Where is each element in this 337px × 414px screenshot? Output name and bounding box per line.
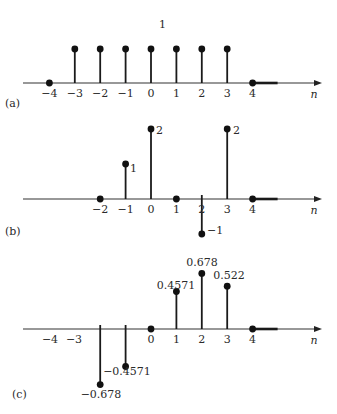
- stem-dot: [71, 46, 78, 53]
- value-annotation: 0.522: [213, 269, 245, 282]
- x-tick-label: −1: [117, 203, 133, 216]
- panel-label: (b): [5, 225, 21, 238]
- x-tick-label: 3: [224, 333, 231, 346]
- x-tick-label: 3: [224, 203, 231, 216]
- x-tick-label: −4: [41, 87, 57, 100]
- panel-label: (a): [5, 97, 20, 110]
- x-tick-label: 4: [249, 87, 256, 100]
- stem-dot: [224, 283, 231, 290]
- value-annotation: 0.678: [186, 256, 218, 269]
- value-annotation: 2: [233, 124, 240, 137]
- x-tick-label: −4: [42, 333, 58, 346]
- x-axis-label: n: [310, 88, 317, 101]
- x-axis-label: n: [310, 334, 317, 347]
- x-tick-label: 2: [198, 333, 205, 346]
- x-tick-label: −2: [92, 87, 108, 100]
- stem-dot: [224, 126, 231, 133]
- x-tick-label: 4: [249, 203, 256, 216]
- stem-plots-figure: −4−3−2−101234n1(a)−2−101234n12−12(b)−4−3…: [0, 0, 337, 414]
- x-axis-label: n: [310, 204, 317, 217]
- x-tick-label: 3: [224, 87, 231, 100]
- stem-dot: [198, 231, 205, 238]
- x-tick-label: 2: [198, 203, 205, 216]
- x-tick-label: −2: [92, 203, 108, 216]
- x-tick-label: 0: [148, 203, 155, 216]
- value-annotation: 1: [159, 18, 166, 31]
- stem-dot: [173, 196, 180, 203]
- stem-dot: [148, 326, 155, 333]
- panel-b: −2−101234n12−12(b): [5, 124, 322, 238]
- stem-dot: [122, 161, 129, 168]
- stem-dot: [198, 270, 205, 277]
- value-annotation: 1: [130, 162, 137, 175]
- x-tick-label: 4: [249, 333, 256, 346]
- x-tick-label: −1: [117, 87, 133, 100]
- x-tick-label: 1: [173, 87, 180, 100]
- stem-dot: [198, 46, 205, 53]
- x-tick-label: 0: [148, 333, 155, 346]
- stem-dot: [148, 126, 155, 133]
- panel-c: −4−301234n0.45710.6780.522−0.4571−0.678(…: [12, 256, 322, 401]
- axis-arrow-icon: [314, 326, 322, 332]
- value-annotation: −1: [207, 224, 223, 237]
- stem-dot: [97, 46, 104, 53]
- value-annotation: 0.4571: [157, 279, 196, 292]
- axis-arrow-icon: [314, 80, 322, 86]
- stem-dot: [122, 46, 129, 53]
- stem-dot: [148, 46, 155, 53]
- stem-dot: [97, 381, 104, 388]
- x-tick-label: 2: [198, 87, 205, 100]
- stem-dot: [97, 196, 104, 203]
- x-tick-label: 0: [148, 87, 155, 100]
- x-tick-label: −3: [66, 333, 82, 346]
- x-tick-label: 1: [173, 333, 180, 346]
- stem-dot: [173, 46, 180, 53]
- x-tick-label: −3: [67, 87, 83, 100]
- panel-a: −4−3−2−101234n1(a): [5, 18, 322, 110]
- value-annotation: −0.678: [81, 388, 122, 401]
- axis-arrow-icon: [314, 196, 322, 202]
- value-annotation: 2: [156, 124, 163, 137]
- x-tick-label: 1: [173, 203, 180, 216]
- stem-dot: [249, 326, 256, 333]
- stem-dot: [46, 80, 53, 87]
- stem-dot: [249, 196, 256, 203]
- panel-label: (c): [12, 388, 27, 401]
- stem-dot: [249, 80, 256, 87]
- stem-dot: [224, 46, 231, 53]
- value-annotation: −0.4571: [103, 365, 151, 378]
